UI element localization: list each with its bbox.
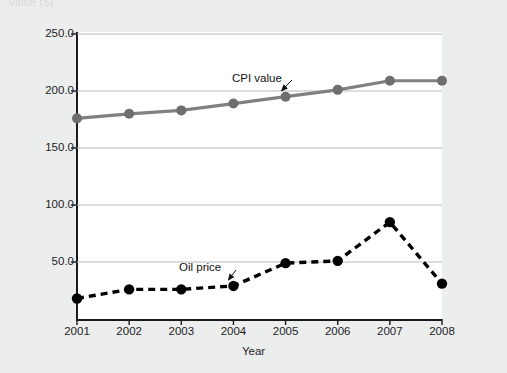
x-axis-tick-label: 2006 <box>316 325 360 337</box>
x-axis-title: Year <box>0 345 507 357</box>
x-axis-tick-label: 2001 <box>55 325 99 337</box>
x-axis-tick-label: 2007 <box>368 325 412 337</box>
data-point <box>333 256 343 266</box>
data-point <box>72 113 82 123</box>
data-point <box>280 258 290 268</box>
data-point <box>124 109 134 119</box>
oil-series-annotation: Oil price <box>179 261 221 273</box>
cpi-leader-line <box>282 80 292 91</box>
chart-canvas <box>0 0 507 373</box>
data-point <box>72 293 82 303</box>
x-axis-tick-label: 2003 <box>159 325 203 337</box>
x-axis-tick-label: 2005 <box>264 325 308 337</box>
data-point <box>333 85 343 95</box>
data-point <box>385 76 395 86</box>
data-point <box>437 278 447 288</box>
chart-screenshot: Value ($) 50.0100.0150.0200.0250.0 CPI v… <box>0 0 507 373</box>
x-axis-tick-label: 2008 <box>420 325 464 337</box>
data-point <box>228 281 238 291</box>
data-point <box>124 284 134 294</box>
x-axis-tick-label: 2004 <box>211 325 255 337</box>
data-point <box>385 217 395 227</box>
data-point <box>176 284 186 294</box>
cpi-series-annotation: CPI value <box>232 72 282 84</box>
x-axis-tick-label: 2002 <box>107 325 151 337</box>
data-point <box>176 105 186 115</box>
data-point <box>281 92 291 102</box>
data-point <box>228 99 238 109</box>
data-point <box>437 76 447 86</box>
oil-leader-line <box>228 270 236 280</box>
